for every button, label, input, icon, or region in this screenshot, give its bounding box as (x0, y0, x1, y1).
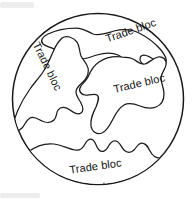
globe-diagram-canvas: Trade bloc Trade bloc Trade bloc Trade b… (0, 0, 194, 201)
scan-artifact-top (0, 2, 34, 8)
scan-artifact-bottom (0, 193, 40, 198)
trade-bloc-globe-diagram: Trade bloc Trade bloc Trade bloc Trade b… (0, 0, 194, 201)
